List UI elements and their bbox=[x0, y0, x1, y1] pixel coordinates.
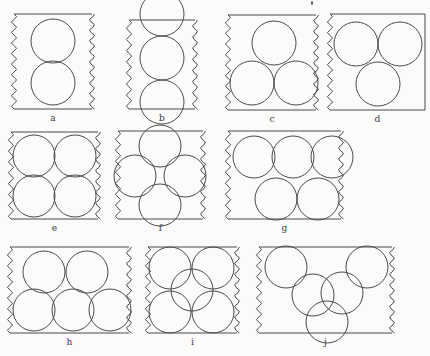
panel-label-d: d bbox=[368, 114, 388, 124]
panel-i-background bbox=[148, 247, 237, 333]
panel-e-background bbox=[11, 132, 98, 219]
panel-j-drawing bbox=[233, 221, 418, 356]
panel-g-background bbox=[228, 131, 341, 219]
panel-label-i: i bbox=[183, 337, 203, 347]
panel-j-background bbox=[259, 247, 392, 333]
panel-label-j: j bbox=[316, 337, 336, 347]
scan-speck bbox=[311, 1, 313, 5]
panel-label-h: h bbox=[60, 337, 80, 347]
panel-b-background bbox=[129, 20, 195, 109]
panel-f-background bbox=[118, 131, 203, 219]
